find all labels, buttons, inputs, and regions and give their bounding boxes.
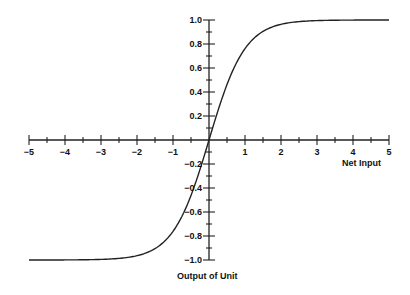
- x-tick-label: −2: [132, 147, 142, 157]
- x-tick-label: 4: [350, 147, 355, 157]
- y-tick-label: 1.0: [189, 15, 202, 25]
- x-tick-label: −1: [168, 147, 178, 157]
- y-tick-label: −0.4: [184, 183, 202, 193]
- activation-chart: −5−4−3−2−112345 1.00.80.60.40.2−0.2−0.4−…: [0, 0, 410, 295]
- x-tick-label: −5: [24, 147, 34, 157]
- y-tick-label: 0.6: [189, 63, 202, 73]
- x-tick-label: 2: [278, 147, 283, 157]
- y-tick-label: 0.8: [189, 39, 202, 49]
- x-tick-label: 1: [242, 147, 247, 157]
- x-axis-label: Net Input: [342, 158, 381, 168]
- y-tick-label: 0.4: [189, 87, 202, 97]
- y-tick-label: −1.0: [184, 255, 202, 265]
- x-tick-label: −4: [60, 147, 70, 157]
- y-tick-label: −0.6: [184, 207, 202, 217]
- x-tick-label: 5: [386, 147, 391, 157]
- x-tick-label: 3: [314, 147, 319, 157]
- y-tick-label: −0.8: [184, 231, 202, 241]
- x-tick-label: −3: [96, 147, 106, 157]
- y-axis-label: Output of Unit: [177, 271, 237, 281]
- y-tick-label: −0.2: [184, 159, 202, 169]
- y-tick-label: 0.2: [189, 111, 202, 121]
